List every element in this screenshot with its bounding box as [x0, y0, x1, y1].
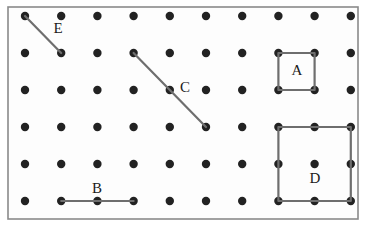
peg-dot [129, 160, 137, 168]
peg-dot [21, 197, 29, 205]
peg-dot [310, 160, 318, 168]
peg-dot [202, 197, 210, 205]
peg-dot [57, 86, 65, 94]
peg-dot [93, 123, 101, 131]
peg-dot [238, 12, 246, 20]
peg-dot [21, 86, 29, 94]
peg-dot [57, 160, 65, 168]
peg-dot [166, 49, 174, 57]
peg-dot [129, 86, 137, 94]
peg-dot [202, 160, 210, 168]
peg-dot [129, 123, 137, 131]
peg-dot [238, 49, 246, 57]
peg-dot [238, 160, 246, 168]
geoboard-canvas: ECBAD [0, 0, 369, 230]
peg-dot [21, 160, 29, 168]
peg-dot [347, 49, 355, 57]
peg-dot [347, 86, 355, 94]
peg-dot [202, 12, 210, 20]
peg-dot [238, 197, 246, 205]
peg-dot [93, 12, 101, 20]
shape-label-e: E [53, 20, 62, 36]
peg-dot [166, 197, 174, 205]
geoboard-figure: ECBAD [0, 0, 369, 230]
peg-dot [347, 12, 355, 20]
peg-dot [166, 12, 174, 20]
shape-label-a: A [292, 62, 303, 78]
geoboard-frame [8, 7, 358, 219]
peg-dot [93, 49, 101, 57]
peg-dot [238, 123, 246, 131]
shape-label-b: B [92, 180, 102, 196]
peg-dot [57, 123, 65, 131]
peg-dot [21, 49, 29, 57]
peg-dot [202, 86, 210, 94]
peg-dot [202, 49, 210, 57]
peg-dot [21, 123, 29, 131]
peg-dot [238, 86, 246, 94]
peg-dot [166, 160, 174, 168]
peg-dot [166, 123, 174, 131]
peg-dot [274, 12, 282, 20]
peg-dot [93, 160, 101, 168]
shape-label-c: C [180, 79, 190, 95]
peg-dot [310, 12, 318, 20]
peg-dot [129, 12, 137, 20]
shape-label-d: D [310, 170, 321, 186]
peg-dot [93, 86, 101, 94]
peg-dot [57, 12, 65, 20]
